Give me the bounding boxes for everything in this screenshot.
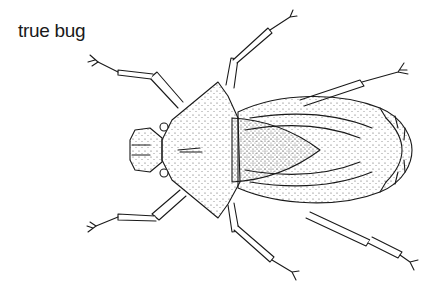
- leg-front-upper: [88, 55, 183, 108]
- head: [130, 123, 168, 177]
- illustration-canvas: true bug: [0, 0, 441, 299]
- leg-middle-upper: [226, 10, 297, 88]
- true-bug-illustration: [0, 0, 441, 299]
- leg-middle-lower: [228, 203, 299, 280]
- leg-front-lower: [87, 190, 186, 232]
- leg-hind-lower: [306, 212, 418, 270]
